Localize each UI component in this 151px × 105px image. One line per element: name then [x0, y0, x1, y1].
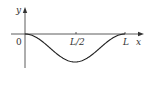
x-axis-label: x [136, 37, 141, 47]
x-axis-arrow-icon [138, 32, 144, 36]
origin-label: 0 [16, 37, 22, 47]
y-axis-label: y [15, 5, 22, 15]
end-label: L [122, 37, 129, 47]
chart: y x 0 L/2 L [0, 0, 151, 105]
half-label: L/2 [69, 37, 85, 47]
y-axis-arrow-icon [23, 7, 27, 13]
